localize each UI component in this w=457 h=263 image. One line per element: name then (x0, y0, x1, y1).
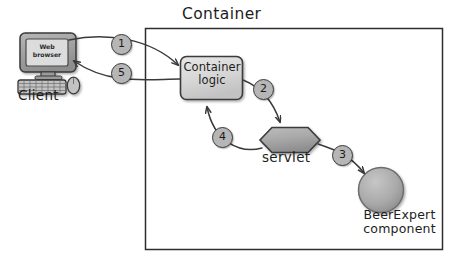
step-badge-5: 5 (111, 63, 132, 84)
beerexpert-node (359, 168, 404, 213)
step-badge-1: 1 (111, 34, 132, 55)
beerexpert-label-line1: BeerExpert (352, 208, 447, 222)
mouse-icon (67, 77, 79, 94)
browser-screen-line2: browser (28, 51, 66, 59)
container-title: Container (182, 6, 261, 23)
diagram-canvas: Container Web browser Client Container l… (0, 0, 457, 263)
step-badge-3: 3 (332, 145, 353, 166)
beerexpert-label-line2: component (352, 222, 447, 236)
browser-screen-line1: Web (28, 43, 66, 51)
beerexpert-label: BeerExpert component (352, 208, 447, 235)
container-logic-label: Container logic (183, 61, 241, 87)
step-badge-2: 2 (253, 79, 274, 100)
client-label: Client (18, 88, 59, 103)
container-logic-label-line2: logic (183, 74, 241, 87)
servlet-label: servlet (262, 150, 310, 165)
step-badge-4: 4 (212, 127, 233, 148)
browser-screen-text: Web browser (28, 43, 66, 59)
container-logic-label-line1: Container (183, 61, 241, 74)
